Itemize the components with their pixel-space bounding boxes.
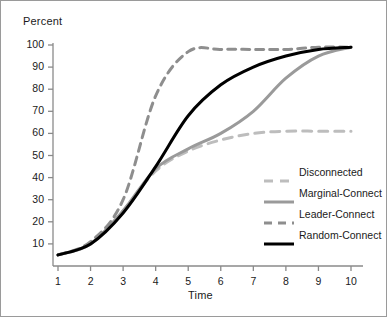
x-tick-label: 1 bbox=[50, 275, 66, 287]
y-tick-label: 80 bbox=[20, 82, 44, 94]
x-tick-label: 2 bbox=[83, 275, 99, 287]
x-axis-ticks bbox=[58, 266, 351, 271]
y-tick-label: 20 bbox=[20, 215, 44, 227]
y-tick-label: 90 bbox=[20, 60, 44, 72]
plot-area bbox=[1, 1, 387, 317]
legend-label: Leader-Connect bbox=[299, 208, 374, 220]
chart-legend: DisconnectedMarginal-ConnectLeader-Conne… bbox=[263, 161, 387, 245]
x-tick-label: 9 bbox=[310, 275, 326, 287]
y-tick-label: 70 bbox=[20, 104, 44, 116]
legend-label: Disconnected bbox=[299, 166, 363, 178]
chart-figure: Percent Time 102030405060708090100 12345… bbox=[0, 0, 387, 317]
y-tick-label: 60 bbox=[20, 126, 44, 138]
y-tick-label: 10 bbox=[20, 237, 44, 249]
legend-label: Marginal-Connect bbox=[299, 187, 382, 199]
y-tick-label: 100 bbox=[20, 38, 44, 50]
x-tick-label: 6 bbox=[213, 275, 229, 287]
y-tick-label: 30 bbox=[20, 193, 44, 205]
y-tick-label: 50 bbox=[20, 149, 44, 161]
y-axis-ticks bbox=[48, 45, 53, 244]
x-tick-label: 5 bbox=[180, 275, 196, 287]
x-tick-label: 8 bbox=[278, 275, 294, 287]
legend-item[interactable]: Disconnected bbox=[263, 161, 387, 182]
x-tick-label: 7 bbox=[245, 275, 261, 287]
legend-label: Random-Connect bbox=[299, 229, 381, 241]
x-tick-label: 4 bbox=[148, 275, 164, 287]
x-tick-label: 3 bbox=[115, 275, 131, 287]
x-tick-label: 10 bbox=[343, 275, 359, 287]
y-tick-label: 40 bbox=[20, 171, 44, 183]
